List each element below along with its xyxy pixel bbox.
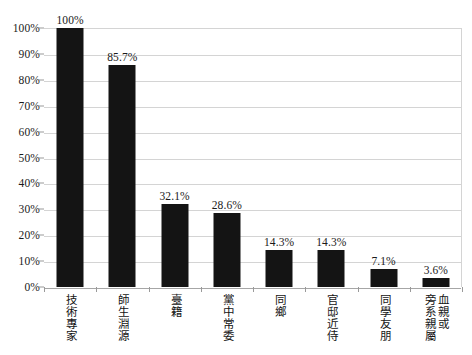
x-category-label-column: 技術專家 <box>64 294 76 342</box>
bar-value-label: 28.6% <box>212 199 242 211</box>
bar-slot: 7.1% <box>358 28 410 287</box>
x-tick-mark <box>44 287 45 292</box>
y-tick-label: 90% <box>19 48 40 60</box>
x-category-label-column: 黨中常委 <box>221 294 233 342</box>
y-tick-label: 70% <box>19 100 40 112</box>
bar-slot: 32.1% <box>149 28 201 287</box>
bar-value-label: 7.1% <box>371 255 395 267</box>
x-tick-mark <box>305 287 306 292</box>
x-category-label: 臺籍 <box>149 294 201 318</box>
x-category-label: 師生淵源 <box>96 294 148 342</box>
bar[interactable] <box>161 204 188 287</box>
bar-slot: 14.3% <box>253 28 305 287</box>
bar[interactable] <box>318 250 345 287</box>
x-axis-labels: 技術專家師生淵源臺籍黨中常委同鄉官邸近侍同學友朋血親或旁系親屬 <box>44 294 462 355</box>
x-tick-mark <box>253 287 254 292</box>
y-tick-label: 0% <box>24 281 40 293</box>
x-category-label: 技術專家 <box>44 294 96 342</box>
bar-value-label: 14.3% <box>316 236 346 248</box>
bar-value-label: 14.3% <box>264 236 294 248</box>
bar[interactable] <box>57 28 84 287</box>
x-category-label-column: 同學友朋 <box>378 294 390 342</box>
x-tick-mark <box>410 287 411 292</box>
x-tick-mark <box>462 287 463 292</box>
x-axis-ticks <box>44 287 462 293</box>
bar-chart: 0%10%20%30%40%50%60%70%80%90%100% 100%85… <box>0 0 472 355</box>
bar-value-label: 85.7% <box>107 51 137 63</box>
bar-value-label: 100% <box>57 14 84 26</box>
x-category-label-column: 旁系親屬 <box>423 294 435 342</box>
bar-slot: 14.3% <box>305 28 357 287</box>
y-tick-label: 100% <box>13 22 40 34</box>
y-tick-label: 20% <box>19 229 40 241</box>
x-tick-mark <box>96 287 97 292</box>
x-category-label-column: 同鄉 <box>273 294 285 318</box>
x-category-label-column: 血親或 <box>436 294 448 330</box>
x-tick-mark <box>358 287 359 292</box>
y-tick-label: 40% <box>19 177 40 189</box>
x-category-label: 黨中常委 <box>201 294 253 342</box>
x-tick-mark <box>201 287 202 292</box>
y-axis: 0%10%20%30%40%50%60%70%80%90%100% <box>0 28 40 287</box>
bar[interactable] <box>370 269 397 287</box>
y-tick-label: 60% <box>19 126 40 138</box>
bar[interactable] <box>109 65 136 287</box>
bar-value-label: 3.6% <box>424 264 448 276</box>
x-tick-mark <box>149 287 150 292</box>
bar-slot: 3.6% <box>410 28 462 287</box>
bar[interactable] <box>213 213 240 287</box>
x-category-label-column: 師生淵源 <box>116 294 128 342</box>
x-category-label-column: 臺籍 <box>169 294 181 318</box>
bar-slot: 85.7% <box>96 28 148 287</box>
x-category-label: 血親或旁系親屬 <box>410 294 462 342</box>
bar-value-label: 32.1% <box>160 190 190 202</box>
x-category-label: 同學友朋 <box>358 294 410 342</box>
bars-layer: 100%85.7%32.1%28.6%14.3%14.3%7.1%3.6% <box>44 28 462 287</box>
bar-slot: 100% <box>44 28 96 287</box>
y-tick-label: 10% <box>19 255 40 267</box>
x-category-label: 官邸近侍 <box>305 294 357 342</box>
y-tick-label: 30% <box>19 203 40 215</box>
bar[interactable] <box>422 278 449 287</box>
x-category-label: 同鄉 <box>253 294 305 318</box>
y-tick-label: 50% <box>19 152 40 164</box>
x-category-label-column: 官邸近侍 <box>325 294 337 342</box>
bar-slot: 28.6% <box>201 28 253 287</box>
y-tick-label: 80% <box>19 74 40 86</box>
bar[interactable] <box>266 250 293 287</box>
